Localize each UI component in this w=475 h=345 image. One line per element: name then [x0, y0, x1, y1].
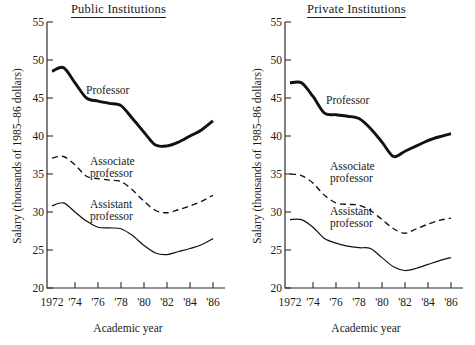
axis-lines-public [47, 22, 225, 288]
plot-area-private [238, 0, 475, 345]
axis-lines-private [285, 22, 463, 288]
x-ticks-private [313, 282, 451, 288]
chart-panel-public: Public Institutions Salary (thousands of… [0, 0, 237, 345]
x-ticks-public [75, 282, 213, 288]
series-line-associate-private [290, 174, 451, 233]
series-line-assistant-private [290, 219, 451, 270]
plot-area-public [0, 0, 237, 345]
figure-root: Public Institutions Salary (thousands of… [0, 0, 475, 345]
series-line-assistant-public [52, 203, 213, 255]
y-ticks-private [285, 22, 291, 288]
series-line-professor-public [52, 67, 213, 146]
y-ticks-public [47, 22, 53, 288]
series-line-associate-public [52, 156, 213, 213]
series-line-professor-private [290, 82, 451, 157]
chart-panel-private: Private Institutions Salary (thousands o… [238, 0, 475, 345]
